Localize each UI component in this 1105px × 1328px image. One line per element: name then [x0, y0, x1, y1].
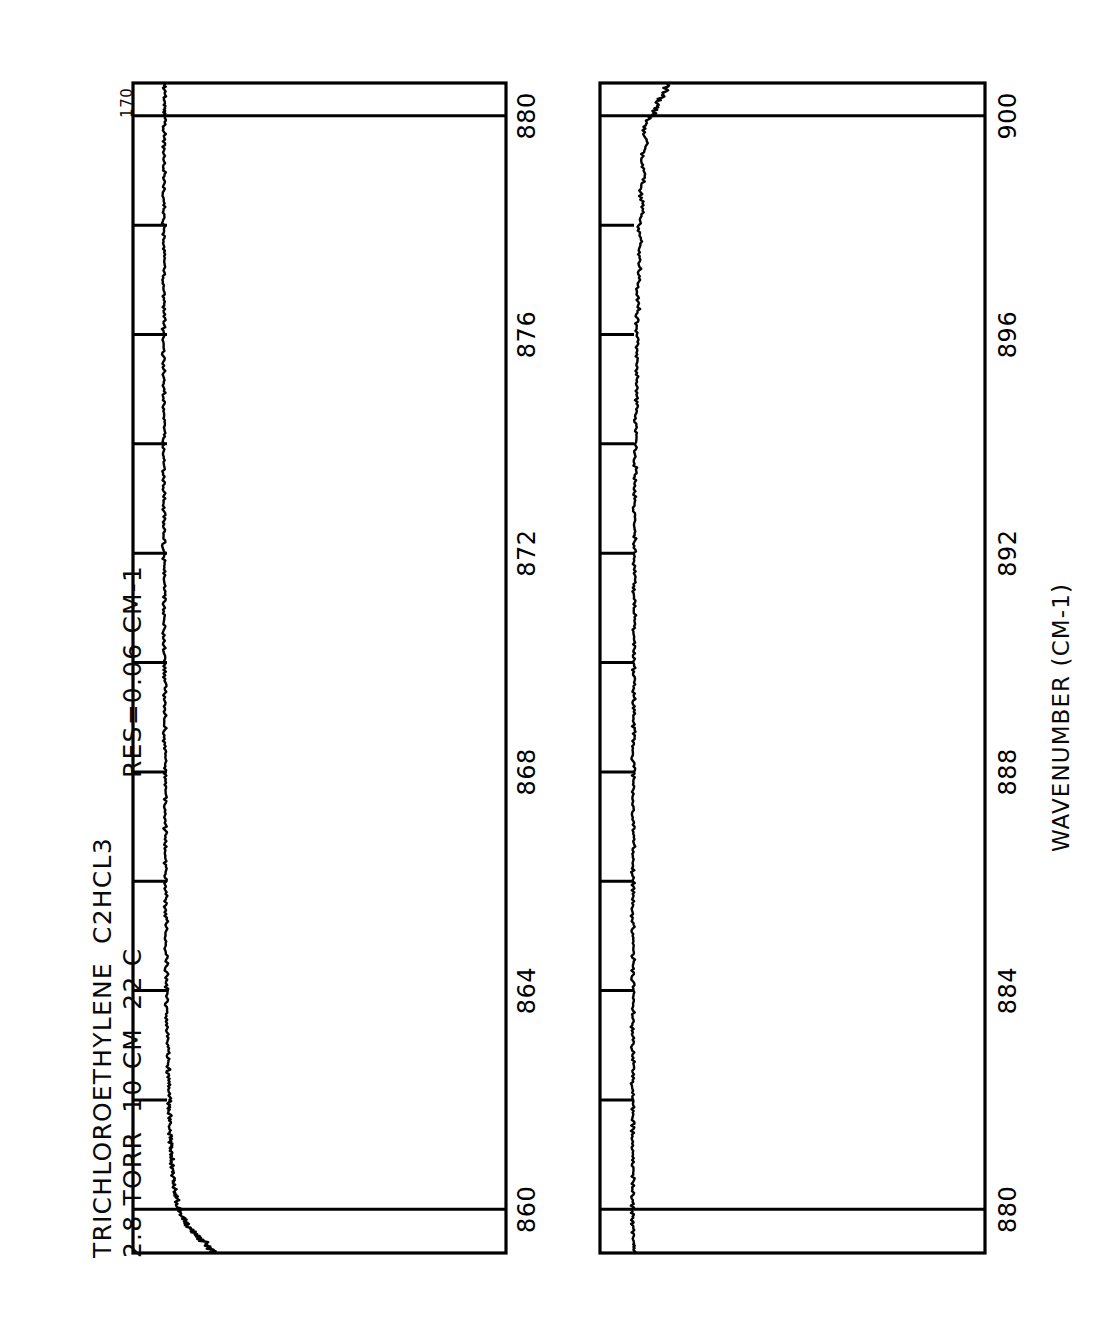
spectrum-trace	[162, 83, 216, 1253]
panel-bottom: 880884888892896900	[600, 83, 1022, 1253]
corner-label-170: 170	[118, 88, 136, 118]
tick-label-892: 892	[994, 530, 1022, 577]
plot-frame	[133, 83, 506, 1253]
tick-label-896: 896	[994, 311, 1022, 358]
tick-label-872: 872	[513, 530, 541, 577]
tick-label-884: 884	[994, 967, 1022, 1014]
tick-label-900: 900	[994, 92, 1022, 139]
spectrum-plot-canvas: 860864868872876880880884888892896900	[0, 0, 1105, 1328]
panel-top: 860864868872876880	[133, 83, 541, 1253]
spectrum-trace	[631, 83, 670, 1253]
tick-label-860: 860	[513, 1186, 541, 1233]
figure-title-line-2: 2.8 TORR 10 CM 22 C	[118, 948, 147, 1258]
plot-frame	[600, 83, 985, 1253]
x-axis-title: WAVENUMBER (CM-1)	[1048, 583, 1074, 852]
tick-label-864: 864	[513, 967, 541, 1014]
tick-label-880: 880	[513, 92, 541, 139]
resolution-label: RES=0.06 CM-1	[118, 565, 147, 778]
tick-label-876: 876	[513, 311, 541, 358]
tick-label-880: 880	[994, 1186, 1022, 1233]
spectrum-figure: 860864868872876880880884888892896900 170…	[0, 0, 1105, 1328]
tick-label-868: 868	[513, 748, 541, 795]
tick-label-888: 888	[994, 748, 1022, 795]
figure-title-line-1: TRICHLOROETHYLENE C2HCL3	[88, 837, 117, 1258]
